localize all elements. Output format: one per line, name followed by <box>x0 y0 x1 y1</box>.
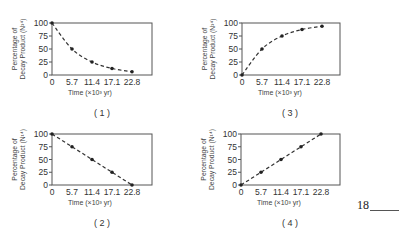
x-tick-label: 5.7 <box>256 77 268 87</box>
x-tick-label: 11.4 <box>84 187 100 197</box>
data-point <box>50 132 54 136</box>
data-point <box>259 170 263 174</box>
chart-4: 025507510005.711.417.122.8Time (×10³ yr)… <box>200 129 340 228</box>
y-tick-label: 50 <box>229 44 239 54</box>
y-tick-label: 25 <box>229 57 239 67</box>
y-tick-label: 0 <box>233 70 238 80</box>
chart-caption: ( 2 ) <box>94 218 110 228</box>
chart-caption: ( 4 ) <box>282 218 298 228</box>
y-tick-label: 75 <box>39 31 49 41</box>
data-point <box>300 28 304 32</box>
y-axis-label: Percentage ofDecay Product (N¹⁴) <box>11 129 27 190</box>
y-tick-label: 25 <box>228 167 238 177</box>
answer-choice-charts: 025507510005.711.417.122.8Time (×10³ yr)… <box>0 0 399 244</box>
y-tick-label: 0 <box>43 180 48 190</box>
x-tick-label: 5.7 <box>255 187 267 197</box>
chart-1: 025507510005.711.417.122.8Time (×10³ yr)… <box>11 18 152 118</box>
y-tick-label: 75 <box>228 142 238 152</box>
plot-frame <box>52 134 152 185</box>
y-tick-label: 0 <box>43 70 48 80</box>
x-axis-label: Time (×10³ yr) <box>68 199 112 207</box>
data-point <box>110 170 114 174</box>
y-tick-label: 100 <box>224 18 238 28</box>
plot-frame <box>241 134 340 185</box>
chart-caption: ( 1 ) <box>94 108 110 118</box>
data-point <box>90 60 94 64</box>
y-tick-label: 50 <box>228 155 238 165</box>
data-point <box>239 183 243 187</box>
y-tick-label: 100 <box>34 129 48 139</box>
question-number: 18 <box>357 198 369 213</box>
x-tick-label: 17.1 <box>293 187 310 197</box>
chart-caption: ( 3 ) <box>282 108 298 118</box>
data-line <box>242 26 322 75</box>
data-point <box>319 132 323 136</box>
x-tick-label: 11.4 <box>84 77 100 87</box>
y-axis-label: Percentage ofDecay Product (N¹⁴) <box>201 18 217 79</box>
x-tick-label: 17.1 <box>104 77 121 87</box>
x-tick-label: 17.1 <box>104 187 121 197</box>
data-line <box>52 23 132 72</box>
x-tick-label: 5.7 <box>66 187 78 197</box>
y-tick-label: 100 <box>34 18 48 28</box>
x-tick-label: 0 <box>50 187 55 197</box>
plot-frame <box>242 23 340 75</box>
y-tick-label: 100 <box>223 129 237 139</box>
x-tick-label: 22.8 <box>124 77 141 87</box>
plot-frame <box>52 23 152 75</box>
data-point <box>260 47 264 51</box>
y-tick-label: 25 <box>39 57 49 67</box>
y-tick-label: 75 <box>229 31 239 41</box>
x-tick-label: 0 <box>240 77 245 87</box>
data-point <box>70 145 74 149</box>
x-tick-label: 22.8 <box>314 77 331 87</box>
data-point <box>280 34 284 38</box>
x-tick-label: 17.1 <box>294 77 311 87</box>
data-point <box>70 47 74 51</box>
y-axis-label: Percentage ofDecay Product (N¹⁴) <box>11 18 27 79</box>
data-point <box>110 67 114 71</box>
x-tick-label: 0 <box>50 77 55 87</box>
chart-3: 025507510005.711.417.122.8Time (×10³ yr)… <box>11 129 152 228</box>
y-tick-label: 25 <box>39 167 49 177</box>
x-tick-label: 11.4 <box>273 187 289 197</box>
x-tick-label: 22.8 <box>124 187 141 197</box>
x-tick-label: 5.7 <box>66 77 78 87</box>
y-tick-label: 75 <box>39 142 49 152</box>
x-axis-label: Time (×10³ yr) <box>257 199 301 207</box>
data-point <box>240 73 244 77</box>
data-point <box>130 183 134 187</box>
data-point <box>90 158 94 162</box>
x-tick-label: 11.4 <box>274 77 290 87</box>
x-axis-label: Time (×10³ yr) <box>258 89 302 97</box>
x-tick-label: 22.8 <box>313 187 330 197</box>
y-tick-label: 0 <box>232 180 237 190</box>
y-axis-label: Percentage ofDecay Product (N¹⁴) <box>200 129 216 190</box>
y-tick-label: 50 <box>39 44 49 54</box>
y-tick-label: 50 <box>39 155 49 165</box>
data-point <box>130 70 134 74</box>
data-point <box>279 158 283 162</box>
chart-2: 025507510005.711.417.122.8Time (×10³ yr)… <box>201 18 340 118</box>
data-point <box>50 21 54 25</box>
data-point <box>320 24 324 28</box>
x-tick-label: 0 <box>239 187 244 197</box>
data-point <box>299 145 303 149</box>
x-axis-label: Time (×10³ yr) <box>68 89 112 97</box>
answer-blank[interactable] <box>370 210 399 211</box>
